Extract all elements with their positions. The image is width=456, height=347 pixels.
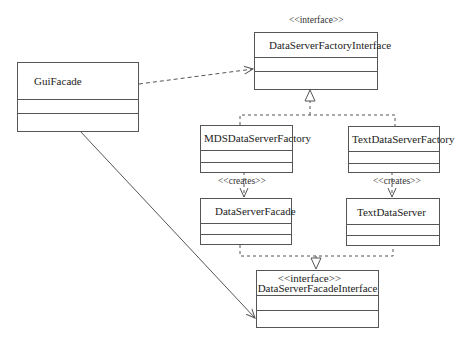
class-name: TextDataServerFactory (349, 127, 439, 152)
class-data-server-factory-interface[interactable]: DataServerFactoryInterface (254, 32, 378, 90)
class-attributes (257, 296, 378, 311)
relationship-lines (0, 0, 456, 347)
dependency-gui-to-factory-iface (139, 69, 253, 84)
stereotype-label: <<interface>> (289, 15, 344, 25)
class-name: MDSDataServerFactory (201, 126, 292, 151)
class-name-block: <<interface>> DataServerFacadeInterface (257, 271, 378, 296)
class-attributes (349, 152, 439, 164)
class-attributes (347, 225, 439, 236)
class-name: DataServerFacadeInterface (258, 283, 378, 293)
class-text-data-server[interactable]: TextDataServer (346, 198, 440, 246)
realization-servers-to-facade-iface (240, 245, 393, 269)
class-name: DataServerFactoryInterface (255, 33, 377, 58)
class-attributes (255, 58, 377, 72)
class-data-server-facade-interface[interactable]: <<interface>> DataServerFacadeInterface (256, 270, 379, 328)
class-name: GuiFacade (18, 63, 138, 100)
class-text-data-server-factory[interactable]: TextDataServerFactory (348, 126, 440, 173)
class-data-server-facade[interactable]: DataServerFacade (200, 198, 292, 245)
class-mds-data-server-factory[interactable]: MDSDataServerFactory (200, 125, 293, 173)
realization-factories-to-factory-iface (240, 90, 395, 126)
class-gui-facade[interactable]: GuiFacade (17, 62, 139, 132)
class-attributes (18, 100, 138, 114)
class-attributes (201, 151, 292, 163)
class-name: TextDataServer (347, 199, 439, 225)
class-attributes (201, 224, 291, 235)
class-name: DataServerFacade (201, 199, 291, 224)
creates-label-left: <<creates>> (218, 176, 266, 186)
creates-label-right: <<creates>> (373, 176, 421, 186)
